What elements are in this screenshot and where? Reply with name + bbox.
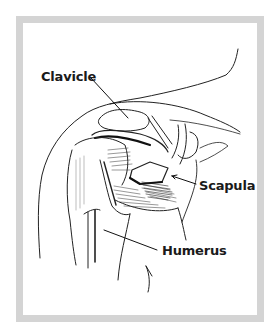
clavicle-label: Clavicle: [41, 70, 96, 83]
scapula-label: Scapula: [199, 179, 255, 192]
shoulder-illustration: [0, 0, 274, 333]
humerus-leader-line: [104, 230, 157, 250]
humerus-label: Humerus: [162, 244, 227, 257]
clavicle-leader-line: [91, 78, 128, 118]
scapula-leader-line: [172, 176, 196, 184]
